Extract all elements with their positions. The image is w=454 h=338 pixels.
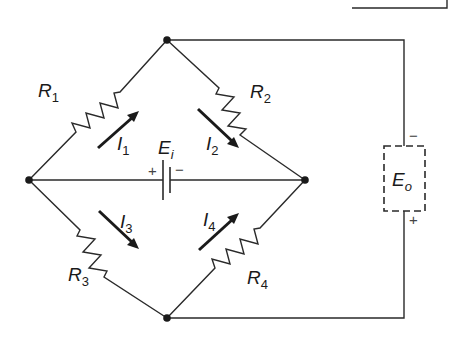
node-bottom-icon <box>163 314 171 322</box>
r3-label: R3 <box>68 264 89 289</box>
current-arrow-i3: I3 <box>99 211 139 249</box>
eo-minus-sign: − <box>409 127 418 144</box>
eo-plus-sign: + <box>409 211 418 228</box>
output-wires <box>167 40 404 318</box>
i4-label: I4 <box>203 209 216 234</box>
r2-label: R2 <box>250 81 271 106</box>
frame-edge <box>352 0 447 8</box>
resistor-r2: R2 <box>167 40 305 180</box>
ei-minus-sign: − <box>175 161 184 178</box>
ei-plus-sign: + <box>148 162 157 179</box>
resistor-r3: R3 <box>29 180 167 318</box>
wheatstone-bridge-diagram: Eo − + R1 I1 R2 I2 Ei + − R3 <box>0 0 454 338</box>
r1-label: R1 <box>38 80 59 105</box>
current-arrow-i2: I2 <box>198 109 239 158</box>
i1-label: I1 <box>117 133 130 158</box>
current-arrow-i4: I4 <box>199 209 239 250</box>
i2-label: I2 <box>206 133 219 158</box>
eo-label: Eo <box>392 169 412 194</box>
source-ei: Ei + − <box>29 137 305 200</box>
ei-label: Ei <box>158 137 175 162</box>
r4-label: R4 <box>247 267 268 292</box>
node-left-icon <box>25 176 33 184</box>
node-top-icon <box>163 36 171 44</box>
node-right-icon <box>301 176 309 184</box>
resistor-r4: R4 <box>167 180 305 318</box>
resistor-r1: R1 <box>29 40 167 180</box>
